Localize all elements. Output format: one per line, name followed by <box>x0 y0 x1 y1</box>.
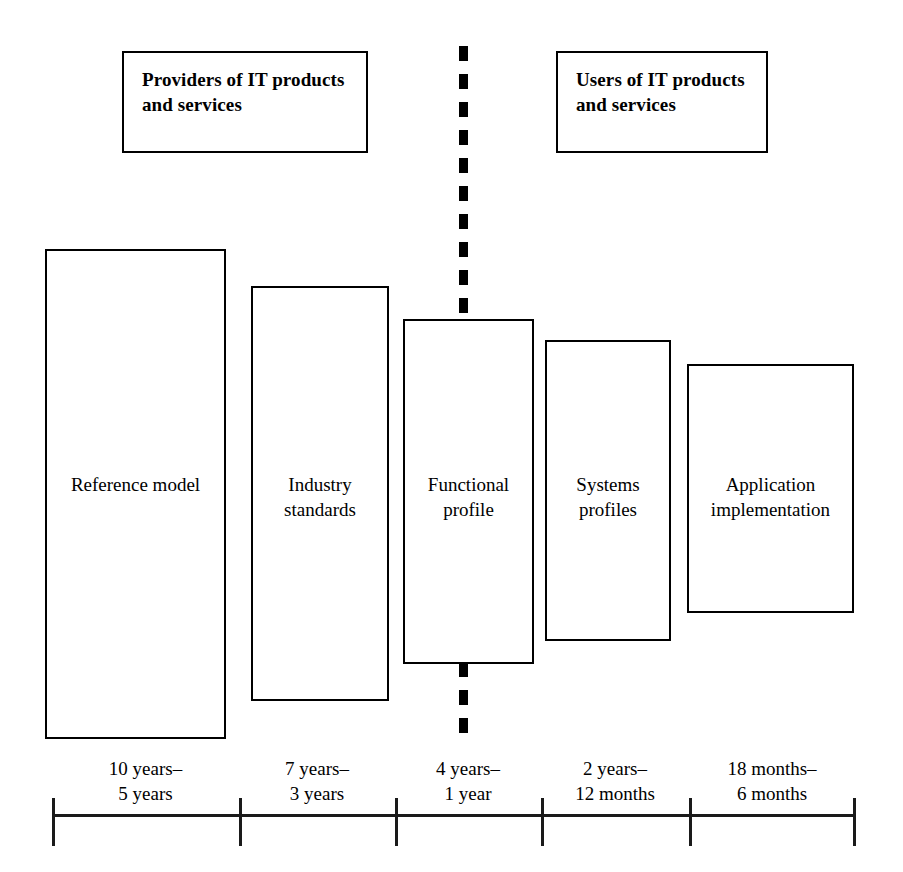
axis-tick-3 <box>541 798 544 846</box>
provider-user-divider-lower <box>459 662 468 744</box>
stage-box-industry-standards: Industry standards <box>251 286 389 701</box>
header-box-providers: Providers of IT products and services <box>122 51 368 153</box>
period-label-reference-model: 10 years– 5 years <box>52 757 239 806</box>
stage-label-systems-profiles: Systems profiles <box>547 473 669 522</box>
stage-label-reference-model: Reference model <box>47 473 224 498</box>
period-label-application-implementation: 18 months– 6 months <box>689 757 855 806</box>
provider-user-divider-upper <box>459 46 468 324</box>
header-box-users-label: Users of IT products and services <box>576 69 745 115</box>
stage-box-functional-profile: Functional profile <box>403 319 534 664</box>
axis-tick-end <box>853 798 856 846</box>
axis-tick-4 <box>689 798 692 846</box>
stage-box-reference-model: Reference model <box>45 249 226 739</box>
header-box-users: Users of IT products and services <box>556 51 768 153</box>
stage-box-systems-profiles: Systems profiles <box>545 340 671 641</box>
period-label-functional-profile: 4 years– 1 year <box>395 757 541 806</box>
standards-timescale-diagram: Providers of IT products and services Us… <box>0 0 903 872</box>
axis-tick-1 <box>239 798 242 846</box>
stage-label-application-implementation: Application implementation <box>689 473 852 522</box>
axis-tick-start <box>52 798 55 846</box>
period-label-systems-profiles: 2 years– 12 months <box>541 757 689 806</box>
timescale-axis-line <box>52 814 856 817</box>
header-box-providers-label: Providers of IT products and services <box>142 69 344 115</box>
axis-tick-2 <box>395 798 398 846</box>
stage-label-functional-profile: Functional profile <box>405 473 532 522</box>
stage-label-industry-standards: Industry standards <box>253 473 387 522</box>
stage-box-application-implementation: Application implementation <box>687 364 854 613</box>
period-label-industry-standards: 7 years– 3 years <box>239 757 395 806</box>
